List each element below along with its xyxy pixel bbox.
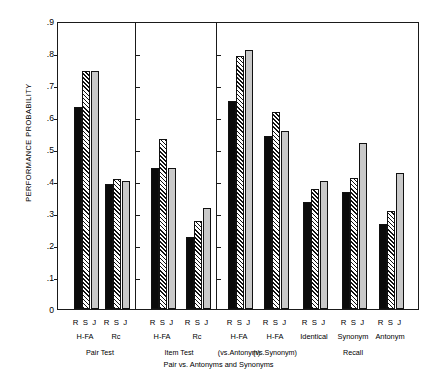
y-axis-tick xyxy=(54,279,58,280)
bar-j xyxy=(168,168,176,309)
y-tick-label: .6 xyxy=(38,114,54,123)
y-axis-title: PERFORMANCE PROBABILITY xyxy=(24,68,33,218)
panel-divider-tick xyxy=(136,215,140,216)
group-tick-label: R S J xyxy=(91,318,141,327)
bar-j xyxy=(203,208,211,309)
panel-divider-tick xyxy=(217,279,221,280)
bar-r xyxy=(264,136,272,309)
panel-divider-tick xyxy=(217,151,221,152)
bar-r xyxy=(379,224,387,309)
bar-group xyxy=(303,21,328,309)
bar-group xyxy=(228,21,253,309)
bar-s xyxy=(272,112,280,309)
x-axis-labels: R S JR S JR S JR S JR S JR S JR S JR S J… xyxy=(0,310,437,381)
y-tick-label: .2 xyxy=(38,242,54,251)
y-tick-label: .8 xyxy=(38,50,54,59)
bar-s xyxy=(159,139,167,309)
panel-divider-tick xyxy=(217,55,221,56)
bar-j xyxy=(281,131,289,309)
y-axis-tick xyxy=(54,151,58,152)
panel-divider-tick xyxy=(136,55,140,56)
bar-r xyxy=(228,101,236,309)
panel-divider-tick xyxy=(136,183,140,184)
panel-divider-tick xyxy=(217,119,221,120)
plot-area xyxy=(57,22,419,310)
panel-divider-tick xyxy=(217,215,221,216)
group-tick-label: R S J xyxy=(365,318,415,327)
y-tick-label: .9 xyxy=(38,18,54,27)
panel-label-pair-test: Pair Test xyxy=(60,348,140,357)
panel-divider-tick xyxy=(217,247,221,248)
panel-divider-tick xyxy=(136,151,140,152)
bar-group xyxy=(342,21,367,309)
bar-r xyxy=(151,168,159,309)
y-axis-tick xyxy=(54,215,58,216)
bar-r xyxy=(303,202,311,309)
panel-divider-1 xyxy=(135,23,136,309)
bar-s xyxy=(311,189,319,309)
bar-s xyxy=(350,178,358,309)
panel-divider-2 xyxy=(216,23,217,309)
bar-s xyxy=(113,179,121,309)
y-tick-label: .3 xyxy=(38,210,54,219)
panel-divider-tick xyxy=(136,119,140,120)
bar-r xyxy=(342,192,350,309)
bar-group xyxy=(379,21,404,309)
bar-group xyxy=(151,21,176,309)
panel-sublabel-vs-synonym: (vs.Synonym) xyxy=(235,348,315,357)
bar-s xyxy=(194,221,202,309)
y-axis-tick xyxy=(54,247,58,248)
panel-label-recall: Recall xyxy=(313,348,393,357)
bar-group xyxy=(74,21,99,309)
bar-r xyxy=(186,237,194,309)
bar-j xyxy=(396,173,404,309)
bar-j xyxy=(122,181,130,309)
panel-divider-tick xyxy=(217,87,221,88)
bar-r xyxy=(74,107,82,309)
bar-j xyxy=(245,50,253,309)
y-tick-label: .7 xyxy=(38,82,54,91)
bar-r xyxy=(105,184,113,309)
panel-divider-tick xyxy=(136,247,140,248)
chart-title: Pair vs. Antonyms and Synonyms xyxy=(0,360,437,369)
y-axis-tick xyxy=(54,119,58,120)
y-axis-tick xyxy=(54,183,58,184)
y-axis-tick xyxy=(54,87,58,88)
bar-s xyxy=(236,56,244,309)
y-tick-label: .4 xyxy=(38,178,54,187)
y-tick-label: .5 xyxy=(38,146,54,155)
panel-divider-tick xyxy=(136,279,140,280)
panel-divider-tick xyxy=(136,87,140,88)
bar-s xyxy=(82,71,90,309)
bar-group xyxy=(186,21,211,309)
bar-j xyxy=(320,181,328,309)
y-tick-label: .1 xyxy=(38,274,54,283)
bar-group xyxy=(264,21,289,309)
group-name-label: Antonym xyxy=(360,332,420,341)
panel-divider-tick xyxy=(217,183,221,184)
bar-j xyxy=(359,143,367,309)
bar-chart-figure: PERFORMANCE PROBABILITY .9.8.7.6.5.4.3.2… xyxy=(0,0,437,381)
bar-group xyxy=(105,21,130,309)
bar-s xyxy=(387,211,395,309)
bar-j xyxy=(91,71,99,309)
y-axis-tick xyxy=(54,55,58,56)
